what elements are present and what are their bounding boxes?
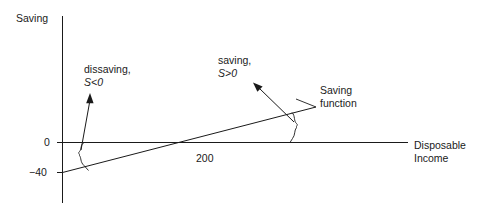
saving-function-leader <box>296 99 316 107</box>
x-axis-title-line1: Disposable <box>414 139 466 151</box>
dissaving-arrow-head <box>86 93 93 103</box>
dissaving-annotation-line1: dissaving, <box>84 63 131 75</box>
y-tick-label-zero: 0 <box>44 136 50 149</box>
y-axis-title: Saving <box>16 12 48 25</box>
dissaving-annotation-line2: S<0 <box>84 76 103 88</box>
x-tick-label-200: 200 <box>196 152 214 165</box>
saving-function-label-line1: Saving <box>320 84 352 96</box>
x-axis-title: DisposableIncome <box>414 139 466 164</box>
saving-function-diagram: Saving DisposableIncome 0 −40 200 dissav… <box>0 0 482 220</box>
saving-function-label-line2: function <box>320 97 357 109</box>
saving-brace <box>290 113 297 143</box>
saving-annotation-line1: saving, <box>218 54 251 66</box>
diagram-canvas <box>0 0 482 220</box>
saving-function-label: Savingfunction <box>320 84 357 109</box>
saving-function-line <box>63 107 317 173</box>
saving-annotation: saving,S>0 <box>218 54 251 79</box>
x-axis-title-line2: Income <box>414 152 448 164</box>
saving-annotation-line2: S>0 <box>218 67 237 79</box>
dissaving-annotation: dissaving,S<0 <box>84 63 131 88</box>
y-tick-label-neg40: −40 <box>29 166 47 179</box>
